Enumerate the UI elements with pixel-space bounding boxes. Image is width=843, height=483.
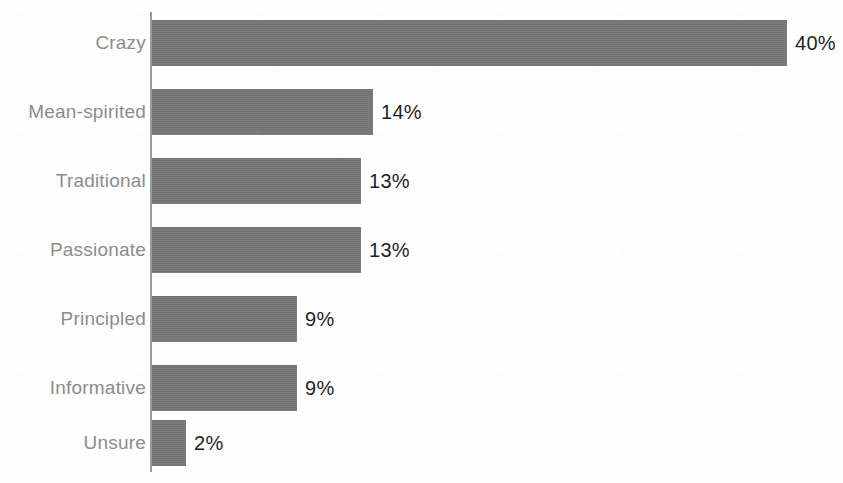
bar-row: Mean-spirited 14%	[0, 89, 843, 135]
category-label: Unsure	[84, 420, 146, 466]
bar-track	[152, 20, 787, 66]
value-label: 9%	[305, 365, 335, 411]
bar-row: Informative 9%	[0, 365, 843, 411]
bar-unsure[interactable]	[152, 420, 186, 466]
category-label: Mean-spirited	[28, 89, 146, 135]
category-label: Crazy	[95, 20, 146, 66]
category-label: Informative	[50, 365, 146, 411]
bar-track	[152, 296, 297, 342]
bar-track	[152, 158, 361, 204]
category-label: Passionate	[50, 227, 146, 273]
value-label: 14%	[381, 89, 422, 135]
bar-mean-spirited[interactable]	[152, 89, 373, 135]
category-label: Principled	[61, 296, 146, 342]
value-label: 9%	[305, 296, 335, 342]
value-label: 2%	[194, 420, 224, 466]
bar-track	[152, 365, 297, 411]
value-label: 13%	[369, 158, 410, 204]
bar-row: Principled 9%	[0, 296, 843, 342]
bar-row: Unsure 2%	[0, 420, 843, 466]
value-label: 40%	[795, 20, 836, 66]
bar-passionate[interactable]	[152, 227, 361, 273]
bar-track	[152, 89, 373, 135]
bar-row: Crazy 40%	[0, 20, 843, 66]
bar-traditional[interactable]	[152, 158, 361, 204]
bar-informative[interactable]	[152, 365, 297, 411]
bar-crazy[interactable]	[152, 20, 787, 66]
bar-chart: Crazy 40% Mean-spirited 14% Traditional …	[0, 0, 843, 483]
bar-principled[interactable]	[152, 296, 297, 342]
value-label: 13%	[369, 227, 410, 273]
category-label: Traditional	[56, 158, 146, 204]
bar-track	[152, 420, 186, 466]
bar-row: Traditional 13%	[0, 158, 843, 204]
bar-track	[152, 227, 361, 273]
bar-row: Passionate 13%	[0, 227, 843, 273]
